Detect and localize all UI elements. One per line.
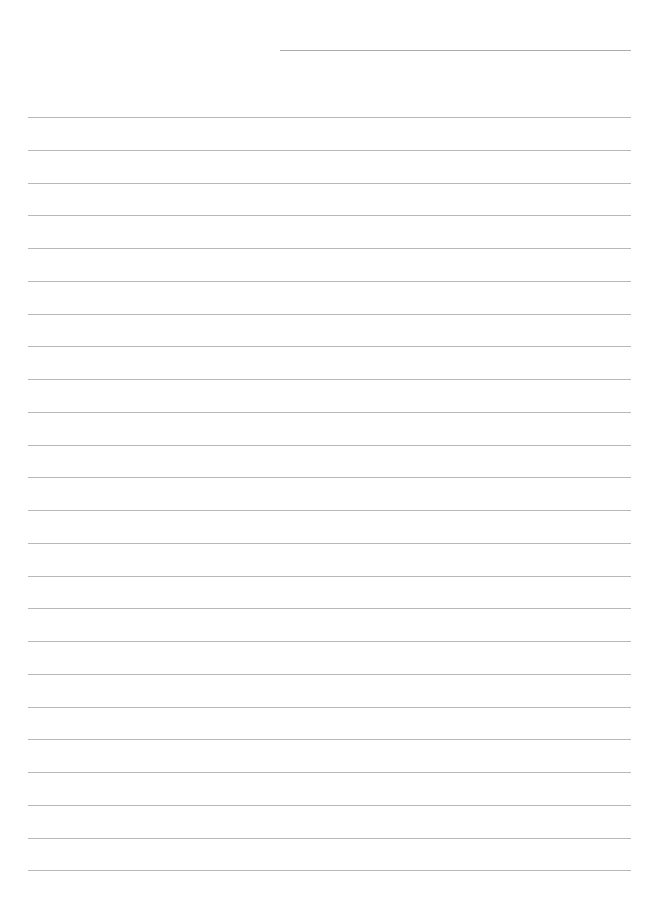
ruled-line — [28, 576, 631, 577]
ruled-line — [28, 412, 631, 413]
ruled-line — [28, 739, 631, 740]
ruled-line — [28, 707, 631, 708]
ruled-line — [28, 117, 631, 118]
ruled-line — [28, 608, 631, 609]
ruled-line — [28, 510, 631, 511]
ruled-line — [28, 772, 631, 773]
ruled-line — [28, 543, 631, 544]
ruled-line — [28, 870, 631, 871]
ruled-line — [28, 346, 631, 347]
ruled-line — [28, 838, 631, 839]
ruled-line — [28, 183, 631, 184]
ruled-line — [28, 248, 631, 249]
lined-paper-page — [0, 0, 660, 911]
ruled-line — [28, 281, 631, 282]
ruled-line — [28, 641, 631, 642]
header-write-line — [280, 50, 631, 51]
ruled-line — [28, 674, 631, 675]
ruled-line — [28, 445, 631, 446]
ruled-line — [28, 805, 631, 806]
ruled-line — [28, 215, 631, 216]
ruled-line — [28, 379, 631, 380]
ruled-line — [28, 150, 631, 151]
ruled-line — [28, 477, 631, 478]
ruled-line — [28, 314, 631, 315]
